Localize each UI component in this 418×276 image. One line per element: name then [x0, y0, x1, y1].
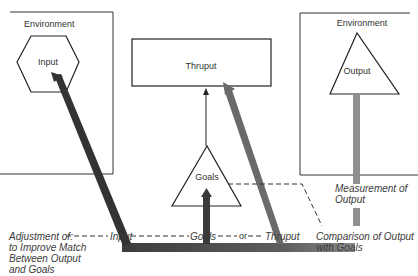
- comparison-annotation: Comparison of Output with Goals: [316, 231, 414, 253]
- goals-label: Goals: [195, 172, 219, 182]
- output-triangle: [330, 33, 399, 94]
- feedback-to-input-arrow: [51, 72, 131, 246]
- left-environment-label: Environment: [24, 19, 75, 29]
- input-label: Input: [38, 57, 58, 67]
- output-label: Output: [343, 66, 370, 76]
- feedback-or-label: or: [239, 231, 247, 241]
- feedback-thruput-label: Thruput: [265, 231, 299, 242]
- thruput-label: Thruput: [185, 61, 216, 71]
- feedback-goals-label: Goals: [190, 231, 216, 242]
- adjustment-annotation: Adjustment of: to Improve Match Between …: [9, 231, 86, 275]
- goals-to-thruput-arrow: [203, 88, 209, 146]
- feedback-input-label: Input: [110, 231, 132, 242]
- feedback-to-thruput-arrow: [223, 82, 284, 244]
- right-environment-label: Environment: [337, 18, 388, 28]
- measurement-annotation: Measurement of Output: [335, 183, 407, 205]
- output-measurement-arrow: [353, 94, 360, 226]
